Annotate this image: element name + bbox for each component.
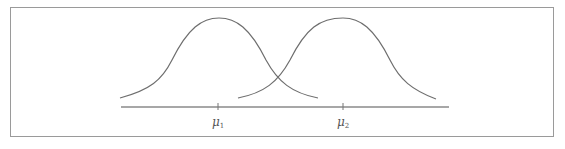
- distribution-curve-1: [120, 18, 318, 98]
- mu2-label: μ2: [337, 116, 349, 130]
- distribution-curve-2: [238, 18, 436, 99]
- mu1-label: μ1: [212, 116, 224, 130]
- distribution-diagram: [0, 0, 565, 149]
